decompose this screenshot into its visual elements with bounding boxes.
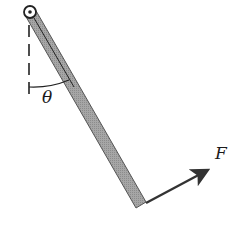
pivot-icon	[24, 6, 36, 18]
force-arrow	[146, 171, 206, 203]
pendulum-diagram: θ F	[0, 0, 231, 248]
rod	[25, 9, 146, 208]
angle-label: θ	[42, 87, 52, 107]
force-label: F	[214, 143, 228, 163]
